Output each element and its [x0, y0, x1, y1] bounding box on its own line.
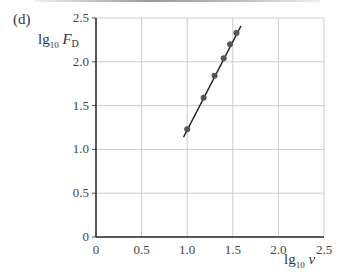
y-tick-label: 0 — [83, 229, 90, 244]
data-point — [221, 55, 227, 61]
data-point — [201, 95, 207, 101]
y-tick-label: 0.5 — [73, 185, 89, 200]
x-tick-label: 1.0 — [179, 242, 195, 257]
scatter-plot: 00.51.01.52.02.500.51.01.52.02.5 — [0, 0, 338, 275]
data-point — [212, 73, 218, 79]
y-tick-label: 1.0 — [73, 141, 89, 156]
data-point — [184, 126, 190, 132]
y-tick-label: 2.0 — [73, 54, 89, 69]
x-tick-label: 2.5 — [316, 242, 332, 257]
x-tick-label: 2.0 — [270, 242, 286, 257]
data-point — [227, 41, 233, 47]
y-tick-label: 1.5 — [73, 98, 89, 113]
x-tick-label: 0.5 — [133, 242, 149, 257]
x-tick-label: 0 — [93, 242, 100, 257]
data-point — [233, 30, 239, 36]
y-tick-label: 2.5 — [73, 10, 89, 25]
x-tick-label: 1.5 — [225, 242, 241, 257]
